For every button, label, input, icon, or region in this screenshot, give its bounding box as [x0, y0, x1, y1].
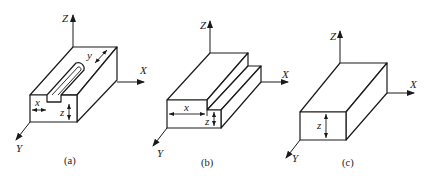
panel-a: Z x z y X Y (a)	[16, 12, 148, 167]
y-axis-arrow	[16, 122, 30, 140]
y-axis-arrow	[153, 128, 167, 146]
z-dimension-label: z	[316, 119, 322, 131]
x-axis-label: X	[409, 78, 418, 90]
caption-a: (a)	[64, 155, 76, 167]
y-axis-label: Y	[292, 152, 300, 164]
block-front-face	[300, 112, 346, 140]
x-dimension-label: x	[183, 101, 189, 113]
y-dimension-label: y	[86, 49, 92, 61]
z-axis-label: Z	[200, 19, 207, 31]
z-axis-label: Z	[62, 12, 69, 24]
z-axis-label: Z	[330, 30, 337, 42]
panel-b: Z x z X Y (b)	[153, 19, 290, 169]
x-axis-label: X	[281, 68, 290, 80]
y-axis-label: Y	[157, 147, 165, 159]
panel-c: Z z X Y (c)	[286, 30, 418, 169]
z-dimension-label: z	[59, 106, 65, 118]
x-axis-label: X	[139, 64, 148, 76]
caption-c: (c)	[342, 157, 354, 169]
caption-b: (b)	[201, 157, 214, 169]
z-dimension-label: z	[204, 115, 210, 127]
figure-canvas: Z x z y X Y (a) Z	[0, 0, 427, 179]
x-dimension-label: x	[34, 96, 40, 108]
y-axis-label: Y	[16, 142, 24, 154]
